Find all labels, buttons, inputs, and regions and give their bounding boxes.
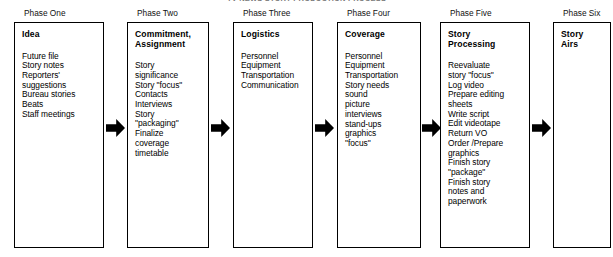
- phase-heading-three: Logistics: [241, 30, 308, 40]
- flow-arrow-2: [211, 119, 230, 137]
- phase-label-one: Phase One: [24, 8, 66, 18]
- flow-arrow-5: [532, 119, 551, 137]
- phase-box-one[interactable]: Idea Future file Story notes Reporters' …: [14, 22, 104, 248]
- phase-items-five: Reevaluate story "focus" Log video Prepa…: [448, 61, 525, 207]
- diagram-title: TV NEWS STORY PRODUCTION PROCESS: [0, 0, 613, 3]
- phase-box-six[interactable]: Story Airs: [553, 22, 611, 248]
- phase-box-three[interactable]: Logistics Personnel Equipment Transporta…: [233, 22, 313, 248]
- phase-box-two[interactable]: Commitment, Assignment Story significanc…: [127, 22, 209, 248]
- phase-label-four: Phase Four: [347, 8, 390, 18]
- phase-items-four: Personnel Equipment Transportation Story…: [345, 52, 416, 149]
- phase-heading-one: Idea: [22, 30, 99, 40]
- flow-arrow-4: [422, 119, 441, 137]
- process-flow-diagram: TV NEWS STORY PRODUCTION PROCESS Phase O…: [0, 0, 613, 257]
- phase-items-one: Future file Story notes Reporters' sugge…: [22, 52, 99, 120]
- phase-label-two: Phase Two: [137, 8, 178, 18]
- phase-label-five: Phase Five: [450, 8, 492, 18]
- flow-arrow-3: [315, 119, 334, 137]
- phase-heading-six: Story Airs: [561, 30, 606, 49]
- phase-items-two: Story significance Story "focus" Contact…: [135, 61, 204, 158]
- phase-label-six: Phase Six: [563, 8, 600, 18]
- phase-box-four[interactable]: Coverage Personnel Equipment Transportat…: [337, 22, 421, 248]
- phase-label-three: Phase Three: [243, 8, 290, 18]
- phase-heading-four: Coverage: [345, 30, 416, 40]
- phase-items-three: Personnel Equipment Transportation Commu…: [241, 52, 308, 91]
- flow-arrow-1: [106, 119, 125, 137]
- phase-heading-two: Commitment, Assignment: [135, 30, 204, 49]
- phase-heading-five: Story Processing: [448, 30, 525, 49]
- phase-box-five[interactable]: Story Processing Reevaluate story "focus…: [440, 22, 530, 248]
